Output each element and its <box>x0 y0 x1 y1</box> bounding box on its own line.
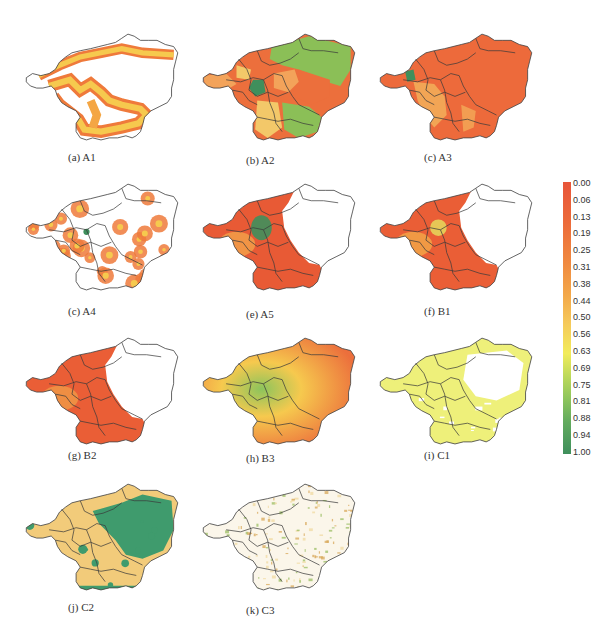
panel-caption-e: (e) A5 <box>246 308 274 320</box>
panel-caption-c: (c) A3 <box>424 151 452 163</box>
panel-caption-a: (a) A1 <box>68 151 96 163</box>
map-panel-d <box>18 176 184 296</box>
legend-tick-label: 0.00 <box>573 178 591 188</box>
legend-tick-label: 0.06 <box>573 195 591 205</box>
legend-tick-label: 0.50 <box>573 312 591 322</box>
cropped-text-fragment: ··· ·· · · <box>330 0 380 6</box>
choropleth-map <box>195 476 361 596</box>
panel-caption-g: (g) B2 <box>68 449 96 461</box>
choropleth-map <box>372 330 538 450</box>
map-panel-e <box>195 176 361 296</box>
choropleth-map <box>372 176 538 296</box>
choropleth-map <box>18 176 184 296</box>
legend-tick-label: 0.44 <box>573 296 591 306</box>
legend-tick-label: 0.94 <box>573 430 591 440</box>
choropleth-map <box>18 26 184 146</box>
panel-caption-k: (k) C3 <box>246 604 274 616</box>
map-panel-f <box>372 176 538 296</box>
panel-caption-j: (j) C2 <box>68 601 94 613</box>
map-panel-h <box>195 330 361 450</box>
panel-caption-f: (f) B1 <box>424 305 451 317</box>
choropleth-map <box>18 330 184 450</box>
map-panel-c <box>372 26 538 146</box>
panel-caption-h: (h) B3 <box>246 452 274 464</box>
map-panel-i <box>372 330 538 450</box>
panel-caption-i: (i) C1 <box>424 449 450 461</box>
choropleth-map <box>18 476 184 596</box>
map-panel-k <box>195 476 361 596</box>
legend-tick-label: 1.00 <box>573 447 591 457</box>
map-panel-a <box>18 26 184 146</box>
map-panel-b <box>195 26 361 146</box>
legend-tick-label: 0.75 <box>573 380 591 390</box>
legend-tick-label: 0.31 <box>573 262 591 272</box>
legend-tick-label: 0.38 <box>573 279 591 289</box>
panel-caption-d: (c) A4 <box>68 305 96 317</box>
legend-tick-label: 0.63 <box>573 346 591 356</box>
legend-color-bar <box>563 182 571 454</box>
cropped-header-text: ··· ·· ··· · ··· ·· · · <box>0 0 608 6</box>
map-panel-j <box>18 476 184 596</box>
legend-tick-label: 0.88 <box>573 413 591 423</box>
legend-tick-label: 0.56 <box>573 329 591 339</box>
color-legend: 0.000.060.130.190.250.310.380.440.500.56… <box>563 178 608 463</box>
legend-tick-label: 0.19 <box>573 228 591 238</box>
map-panel-g <box>18 330 184 450</box>
legend-tick-label: 0.69 <box>573 363 591 373</box>
legend-tick-label: 0.81 <box>573 396 591 406</box>
choropleth-map <box>195 176 361 296</box>
legend-tick-label: 0.13 <box>573 212 591 222</box>
panel-caption-b: (b) A2 <box>246 154 274 166</box>
choropleth-map <box>195 330 361 450</box>
choropleth-map <box>195 26 361 146</box>
legend-tick-label: 0.25 <box>573 245 591 255</box>
cropped-text-fragment: ··· ·· ··· · <box>150 0 211 6</box>
choropleth-map <box>372 26 538 146</box>
